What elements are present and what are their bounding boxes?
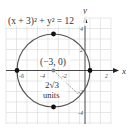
- tick-y-4: 4: [80, 26, 83, 32]
- radius-units-label: units: [43, 90, 60, 100]
- point-left: [15, 68, 20, 73]
- point-bottom: [51, 105, 56, 110]
- x-axis-label: x: [121, 66, 126, 76]
- circle-graph: x y -6 -4 -2 2 4 2 -2 -4 (x + 3)² + y² =…: [0, 0, 136, 130]
- y-axis-label: y: [82, 5, 87, 15]
- point-top: [51, 32, 56, 37]
- center-point: [52, 69, 56, 73]
- point-right: [88, 68, 93, 73]
- tick-y-neg4: -4: [78, 110, 83, 116]
- equation-label: (x + 3)² + y² = 12: [8, 16, 74, 27]
- tick-x-neg2: -2: [62, 73, 67, 79]
- radius-value-label: 2√3: [45, 80, 59, 90]
- x-axis-arrow-icon: [113, 68, 119, 73]
- tick-x-2: 2: [105, 73, 108, 79]
- tick-x-neg6: -6: [19, 73, 24, 79]
- tick-x-neg4: -4: [40, 73, 45, 79]
- center-label: (−3, 0): [40, 57, 66, 68]
